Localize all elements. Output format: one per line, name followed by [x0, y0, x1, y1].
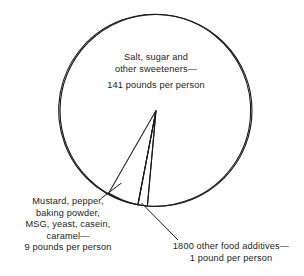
- label-mustard-value: 9 pounds per person: [2, 242, 134, 254]
- leader-line-other-additives: [142, 203, 179, 240]
- label-mustard-pepper-group: Mustard, pepper, baking powder, MSG, yea…: [2, 196, 134, 254]
- label-mustard-line-4: caramel—: [2, 231, 134, 243]
- label-mustard-line-2: baking powder,: [2, 208, 134, 220]
- pie-chart-figure: Salt, sugar and other sweeteners— 141 po…: [0, 0, 304, 276]
- label-salt-value: 141 pounds per person: [78, 80, 234, 92]
- label-mustard-line-1: Mustard, pepper,: [2, 196, 134, 208]
- label-salt-line-1: Salt, sugar and: [78, 52, 234, 64]
- label-salt-sugar-sweeteners: Salt, sugar and other sweeteners— 141 po…: [78, 52, 234, 92]
- label-other-line-1: 1800 other food additives—: [160, 241, 302, 253]
- label-mustard-line-3: MSG, yeast, casein,: [2, 219, 134, 231]
- label-other-value: 1 pound per person: [160, 253, 302, 265]
- label-other-additives: 1800 other food additives— 1 pound per p…: [160, 241, 302, 264]
- label-salt-line-2: other sweeteners—: [78, 64, 234, 76]
